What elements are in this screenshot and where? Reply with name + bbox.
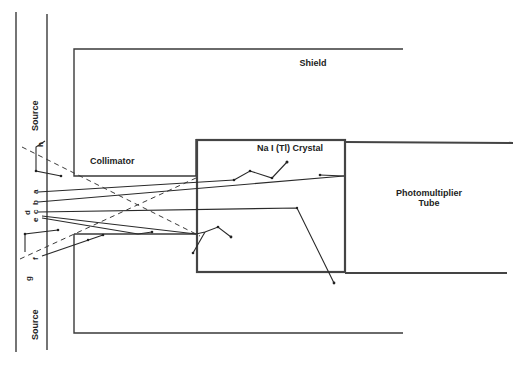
ray-f-segment	[42, 235, 103, 256]
path-label-h: h	[36, 142, 45, 147]
source-top-label: Source	[30, 100, 40, 131]
ray-f	[42, 234, 104, 256]
pmt-label-line1: Photomultiplier	[396, 188, 462, 198]
collimator-label: Collimator	[90, 156, 135, 166]
shield-label: Shield	[299, 58, 326, 68]
source-bottom-label: Source	[30, 309, 40, 340]
ray-b-backscatter	[320, 175, 344, 176]
shield-outline	[74, 49, 403, 333]
ray-d-scatter	[196, 227, 231, 237]
path-label-d: d	[23, 210, 32, 215]
ray-d-branch	[193, 232, 205, 253]
crystal-label: Na I (Tl) Crystal	[257, 143, 323, 153]
ray-a-scatter	[234, 162, 287, 180]
pmt-label-line2: Tube	[419, 198, 440, 208]
ray-e-path	[42, 218, 152, 234]
shield-lower-block	[74, 234, 403, 333]
ray-g	[24, 229, 60, 252]
ray-b	[38, 174, 344, 202]
gamma-detector-diagram: Shield Collimator Na I (Tl) Crystal Phot…	[0, 0, 525, 373]
ray-g-path	[25, 230, 58, 252]
path-label-a: a	[31, 189, 40, 194]
path-label-e: e	[31, 217, 40, 222]
path-label-f: f	[31, 257, 40, 260]
ray-d	[42, 216, 232, 254]
path-label-c: c	[31, 209, 40, 214]
crystal-box	[197, 140, 345, 272]
nai-crystal	[197, 140, 345, 272]
path-label-b: b	[31, 200, 40, 205]
source-slab	[16, 12, 47, 352]
ray-e	[42, 218, 153, 234]
ray-a-segment	[38, 180, 234, 192]
pmt-top-edge	[345, 142, 513, 143]
path-label-g: g	[24, 276, 33, 281]
